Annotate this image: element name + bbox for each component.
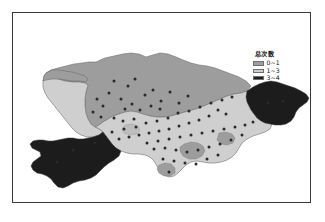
figure-frame: 总次数 0~1 1~3 3~4 — [12, 12, 311, 203]
figure-container: 总次数 0~1 1~3 3~4 — [0, 0, 325, 222]
legend-label-3-4: 3~4 — [267, 75, 280, 81]
map-inclusion-south-d — [122, 124, 140, 135]
legend-swatch-3-4 — [253, 76, 264, 80]
legend-item-1-3[interactable]: 1~3 — [253, 68, 305, 74]
legend-title: 总次数 — [255, 49, 305, 58]
legend-item-3-4[interactable]: 3~4 — [253, 75, 305, 81]
map-legend: 总次数 0~1 1~3 3~4 — [253, 49, 305, 82]
legend-swatch-0-1 — [253, 61, 264, 65]
legend-item-0-1[interactable]: 0~1 — [253, 60, 305, 66]
choropleth-map[interactable] — [13, 13, 312, 204]
legend-swatch-1-3 — [253, 69, 264, 73]
legend-label-1-3: 1~3 — [267, 68, 280, 74]
map-region-west[interactable] — [30, 132, 121, 188]
legend-label-0-1: 0~1 — [267, 60, 280, 66]
